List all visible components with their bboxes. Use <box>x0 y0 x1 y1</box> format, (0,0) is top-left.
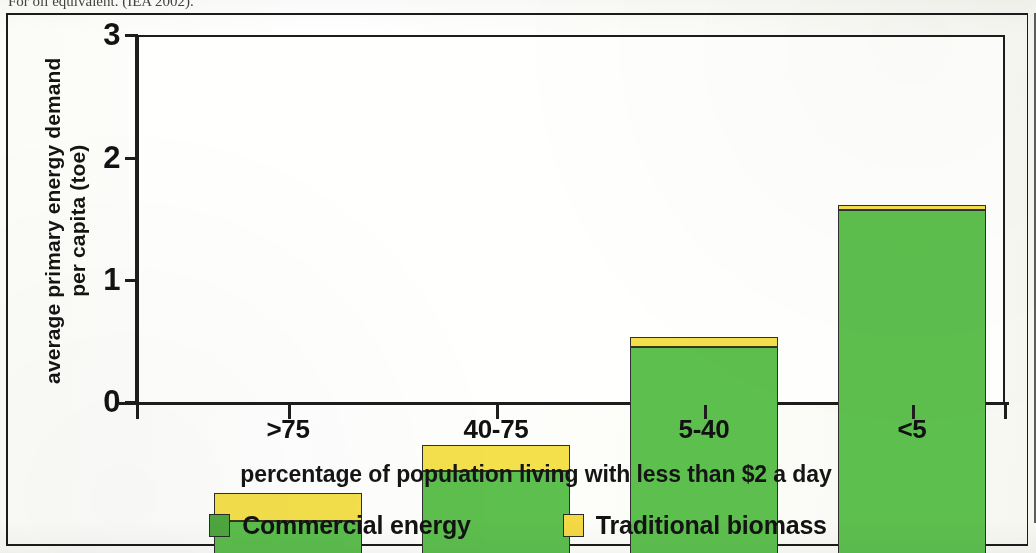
bar-group-lt5[interactable] <box>838 205 986 553</box>
y-tick-3 <box>125 34 138 37</box>
y-tick-0 <box>125 401 138 404</box>
y-tick-label-3: 3 <box>92 17 120 53</box>
chart-legend: Commercial energy Traditional biomass <box>0 505 1036 545</box>
y-axis-title: average primary energy demand per capita… <box>41 21 91 421</box>
y-tick-1 <box>125 279 138 282</box>
y-tick-label-1: 1 <box>92 262 120 298</box>
legend-label-traditional-biomass: Traditional biomass <box>596 511 827 540</box>
clipped-caption-text: For oil equivalent. (IEA 2002). <box>8 0 428 11</box>
legend-label-commercial-energy: Commercial energy <box>242 511 471 540</box>
x-category-label-40-75: 40-75 <box>386 414 606 445</box>
scanned-page: For oil equivalent. (IEA 2002). 3 2 1 0 … <box>0 0 1036 553</box>
x-category-label-5-40: 5-40 <box>594 414 814 445</box>
x-category-label-gt75: >75 <box>178 414 398 445</box>
y-tick-label-2: 2 <box>92 140 120 176</box>
bar-segment-traditional-biomass[interactable] <box>630 337 778 347</box>
bar-segment-commercial-energy[interactable] <box>838 210 986 553</box>
legend-item-traditional-biomass[interactable]: Traditional biomass <box>563 511 827 540</box>
y-axis-title-line-2: per capita (toe) <box>66 21 91 421</box>
x-tick-origin <box>136 405 139 419</box>
y-tick-label-0: 0 <box>92 384 120 420</box>
legend-swatch-green-icon <box>209 514 230 537</box>
y-tick-2 <box>125 157 138 160</box>
y-axis-title-line-1: average primary energy demand <box>41 58 64 384</box>
x-axis-title: percentage of population living with les… <box>96 461 976 488</box>
y-axis-line <box>135 35 138 405</box>
legend-swatch-yellow-icon <box>563 514 584 537</box>
x-category-label-lt5: <5 <box>802 414 1022 445</box>
legend-item-commercial-energy[interactable]: Commercial energy <box>209 511 471 540</box>
